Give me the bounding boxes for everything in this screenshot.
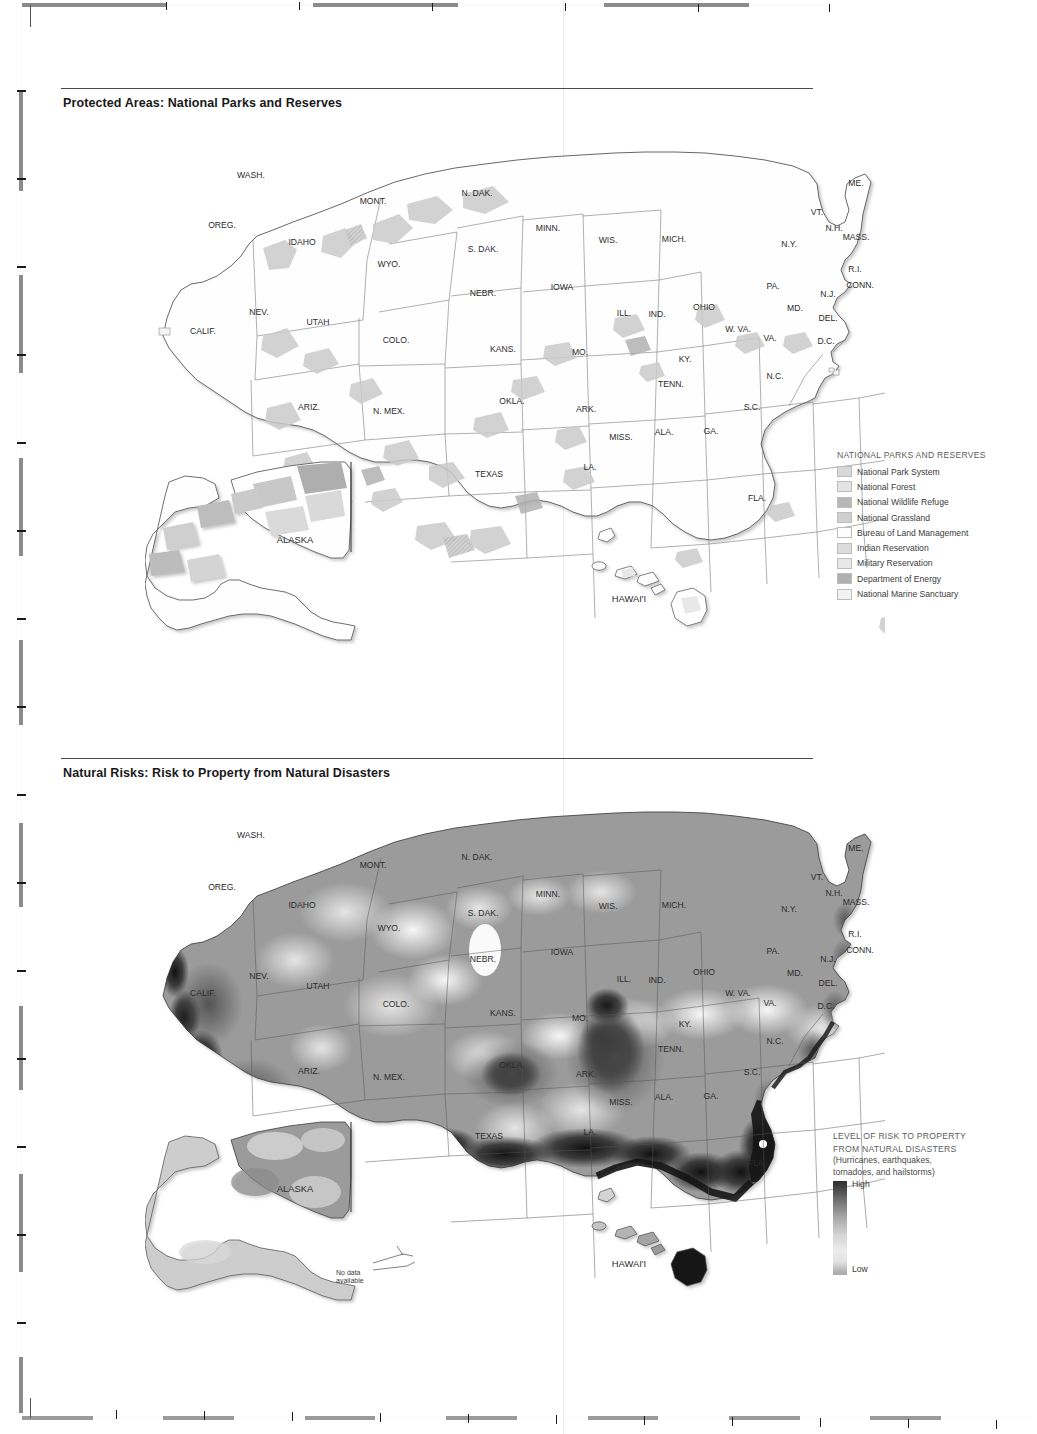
state-label-calif: CALIF. — [190, 988, 216, 998]
legend-swatch — [837, 543, 852, 554]
legend-item-9[interactable]: National Marine Sanctuary — [837, 586, 1007, 601]
state-label-ri: R.I. — [848, 929, 861, 939]
legend-risk-heading-line2: FROM NATURAL DISASTERS — [833, 1143, 1008, 1156]
legend-item-5[interactable]: Bureau of Land Management — [837, 525, 1007, 540]
state-label-vt: VT. — [811, 207, 823, 217]
no-data-line-2: available — [336, 1277, 364, 1285]
risk-colorbar — [833, 1181, 847, 1275]
legend-item-8[interactable]: Department of Energy — [837, 571, 1007, 586]
map-protected-areas[interactable]: WASH.OREG.IDAHOMONT.WYO.NEV.CALIF.UTAHCO… — [145, 140, 885, 660]
legend-swatch — [837, 466, 852, 477]
section-rule — [61, 88, 813, 89]
state-label-mich: MICH. — [662, 900, 686, 910]
risk-colorbar-high-label: High — [852, 1179, 870, 1189]
legend-swatch — [837, 481, 852, 492]
ruler-bottom — [22, 1416, 1032, 1420]
state-label-calif: CALIF. — [190, 326, 216, 336]
ruler-tick — [468, 1414, 469, 1423]
state-label-wyo: WYO. — [378, 259, 401, 269]
legend-label: National Wildlife Refuge — [857, 497, 949, 507]
state-label-sdak: S. DAK. — [468, 908, 499, 918]
no-data-annotation: No data available — [336, 1269, 364, 1286]
legend-label: National Park System — [857, 467, 940, 477]
state-label-nebr: NEBR. — [470, 288, 496, 298]
ruler-tick — [17, 1146, 26, 1148]
state-label-iowa: IOWA — [551, 282, 574, 292]
state-label-ala: ALA. — [655, 427, 674, 437]
state-label-mass: MASS. — [843, 232, 870, 242]
state-label-pa: PA. — [766, 281, 779, 291]
state-label-alaska: ALASKA — [277, 534, 314, 545]
map-natural-risks-svg[interactable]: WASH.OREG.IDAHOMONT.WYO.NEV.CALIF.UTAHCO… — [145, 800, 885, 1320]
state-label-la: LA. — [584, 462, 597, 472]
ruler-tick — [556, 1415, 557, 1424]
ruler-tick — [17, 1322, 26, 1324]
legend-swatch — [837, 497, 852, 508]
no-data-line-1: No data — [336, 1269, 364, 1277]
legend-item-3[interactable]: National Wildlife Refuge — [837, 495, 1007, 510]
state-label-va: VA. — [763, 998, 776, 1008]
ruler-tick — [565, 3, 566, 11]
state-label-ga: GA. — [704, 426, 719, 436]
ruler-top — [22, 3, 830, 7]
state-label-colo: COLO. — [383, 335, 410, 345]
ruler-tick — [996, 1420, 997, 1429]
state-label-ndak: N. DAK. — [461, 188, 492, 198]
state-label-md: MD. — [787, 968, 803, 978]
state-label-kans: KANS. — [490, 344, 516, 354]
ruler-tick — [17, 530, 26, 532]
section-rule — [61, 758, 813, 759]
ruler-tick — [17, 178, 26, 180]
ruler-tick — [829, 4, 830, 12]
state-label-wyo: WYO. — [378, 923, 401, 933]
state-label-mont: MONT. — [360, 860, 387, 870]
ruler-tick — [698, 4, 699, 12]
state-label-oreg: OREG. — [208, 220, 236, 230]
state-label-nmex: N. MEX. — [373, 406, 405, 416]
ruler-tick — [820, 1418, 821, 1427]
state-label-me: ME. — [848, 178, 863, 188]
state-label-wva: W. VA. — [725, 988, 751, 998]
state-label-fla: FLA. — [748, 493, 766, 503]
legend-item-4[interactable]: National Grassland — [837, 510, 1007, 525]
legend-label: Department of Energy — [857, 574, 941, 584]
state-label-hawaii: HAWAI'I — [612, 593, 646, 604]
risk-colorbar-low-label: Low — [852, 1264, 868, 1274]
state-label-nc: N.C. — [766, 1036, 783, 1046]
map-protected-areas-svg[interactable]: WASH.OREG.IDAHOMONT.WYO.NEV.CALIF.UTAHCO… — [145, 140, 885, 660]
legend-item-2[interactable]: National Forest — [837, 479, 1007, 494]
state-label-texas: TEXAS — [475, 1131, 503, 1141]
state-label-nh: N.H. — [825, 888, 842, 898]
state-label-kans: KANS. — [490, 1008, 516, 1018]
legend-item-1[interactable]: National Park System — [837, 464, 1007, 479]
state-label-nebr: NEBR. — [470, 954, 496, 964]
state-label-wis: WIS. — [599, 901, 618, 911]
state-label-alaska: ALASKA — [277, 1183, 314, 1194]
legend-item-6[interactable]: Indian Reservation — [837, 540, 1007, 555]
legend-item-7[interactable]: Military Reservation — [837, 556, 1007, 571]
state-label-ky: KY. — [679, 1019, 692, 1029]
state-label-nc: N.C. — [766, 371, 783, 381]
state-label-miss: MISS. — [609, 1097, 632, 1107]
map-natural-risks[interactable]: WASH.OREG.IDAHOMONT.WYO.NEV.CALIF.UTAHCO… — [145, 800, 885, 1320]
state-label-ny: N.Y. — [781, 239, 797, 249]
state-label-del: DEL. — [818, 313, 837, 323]
ruler-tick — [299, 2, 300, 10]
state-label-okla: OKLA. — [499, 396, 524, 406]
state-label-del: DEL. — [818, 978, 837, 988]
ruler-tick — [17, 1234, 26, 1236]
state-label-minn: MINN. — [536, 223, 560, 233]
state-label-mass: MASS. — [843, 897, 870, 907]
ruler-tick — [116, 1410, 117, 1419]
state-label-mont: MONT. — [360, 196, 387, 206]
state-label-wash: WASH. — [237, 830, 265, 840]
state-label-colo: COLO. — [383, 999, 410, 1009]
state-label-me: ME. — [848, 843, 863, 853]
state-label-sdak: S. DAK. — [468, 244, 499, 254]
ruler-tick — [17, 970, 26, 972]
legend-label: Military Reservation — [857, 558, 932, 568]
state-label-miss: MISS. — [609, 432, 632, 442]
state-label-la: LA. — [584, 1127, 597, 1137]
state-label-tenn: TENN. — [658, 379, 684, 389]
legend-label: Indian Reservation — [857, 543, 929, 553]
